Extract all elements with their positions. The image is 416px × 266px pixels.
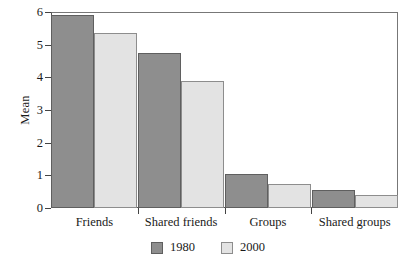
y-axis-tick-label: 4 [9, 71, 43, 83]
x-axis-category-label: Friends [51, 214, 138, 230]
x-axis-category-label: Shared groups [311, 214, 398, 230]
bar [94, 33, 137, 208]
y-axis-tick-label: 5 [9, 39, 43, 51]
y-axis-tick-label: 0 [9, 202, 43, 214]
y-axis-tick-label: 6 [9, 6, 43, 18]
x-axis-category-label: Shared friends [138, 214, 225, 230]
legend-label: 1980 [170, 241, 195, 254]
bar [312, 190, 355, 208]
bar [181, 81, 224, 208]
legend-label: 2000 [240, 241, 265, 254]
legend-swatch-icon [221, 242, 233, 254]
bar [355, 195, 398, 208]
bar [268, 184, 311, 208]
legend-swatch-icon [151, 242, 163, 254]
y-axis-tick [45, 208, 51, 209]
bar [225, 174, 268, 208]
legend-item: 2000 [221, 241, 265, 254]
bar-chart: Mean 0123456 FriendsShared friendsGroups… [0, 0, 416, 266]
bar [51, 15, 94, 208]
y-axis-tick-label: 3 [9, 104, 43, 116]
y-axis-tick-label: 1 [9, 169, 43, 181]
legend-item: 1980 [151, 241, 195, 254]
x-axis-category-label: Groups [225, 214, 312, 230]
y-axis-tick-label: 2 [9, 137, 43, 149]
bar [138, 53, 181, 208]
chart-legend: 19802000 [0, 241, 416, 254]
